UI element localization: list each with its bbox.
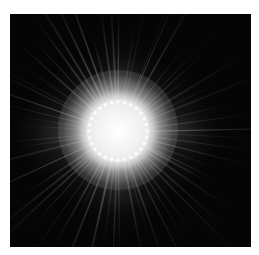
image-canvas <box>0 0 259 255</box>
bead-ring <box>86 99 150 163</box>
photo-frame <box>10 14 251 247</box>
